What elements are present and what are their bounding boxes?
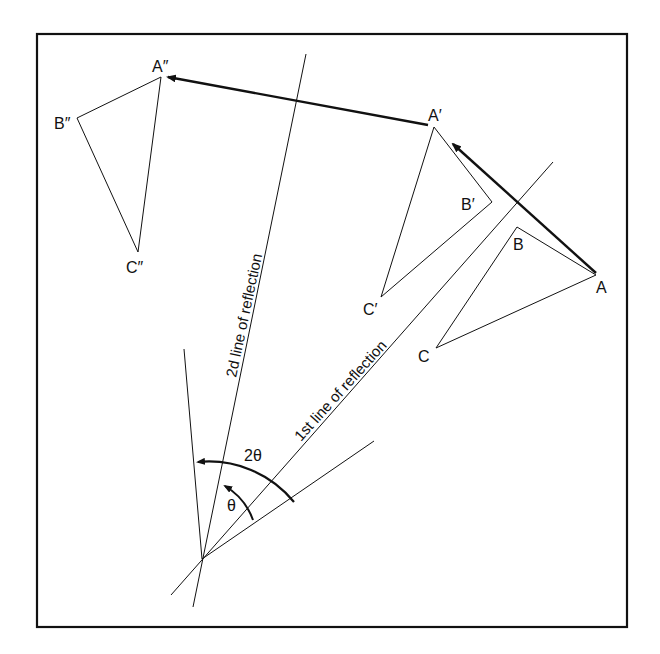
triangle-first-image [381, 127, 492, 297]
label-C-double-prime: C″ [126, 259, 144, 276]
label-A-prime: A′ [428, 107, 442, 124]
arrow-Aprime-to-Adoubleprime [168, 77, 428, 125]
label-2theta: 2θ [244, 447, 262, 464]
angle-2theta-arc [198, 461, 294, 502]
label-B-double-prime: B″ [54, 115, 71, 132]
label-first-line: 1st line of reflection [291, 337, 390, 444]
rotated-ray [184, 349, 202, 559]
label-C-prime: C′ [363, 301, 378, 318]
label-B: B [513, 236, 524, 253]
label-A-double-prime: A″ [152, 58, 169, 75]
label-A: A [596, 279, 607, 296]
second-reflection-line [193, 54, 306, 607]
label-B-prime: B′ [461, 196, 475, 213]
label-C: C [418, 348, 430, 365]
reflection-diagram: A B C A′ B′ C′ A″ B″ C″ 2d line of refle… [0, 0, 660, 654]
label-theta: θ [227, 497, 236, 514]
diagram-frame [37, 34, 627, 627]
triangle-second-image [77, 77, 161, 252]
